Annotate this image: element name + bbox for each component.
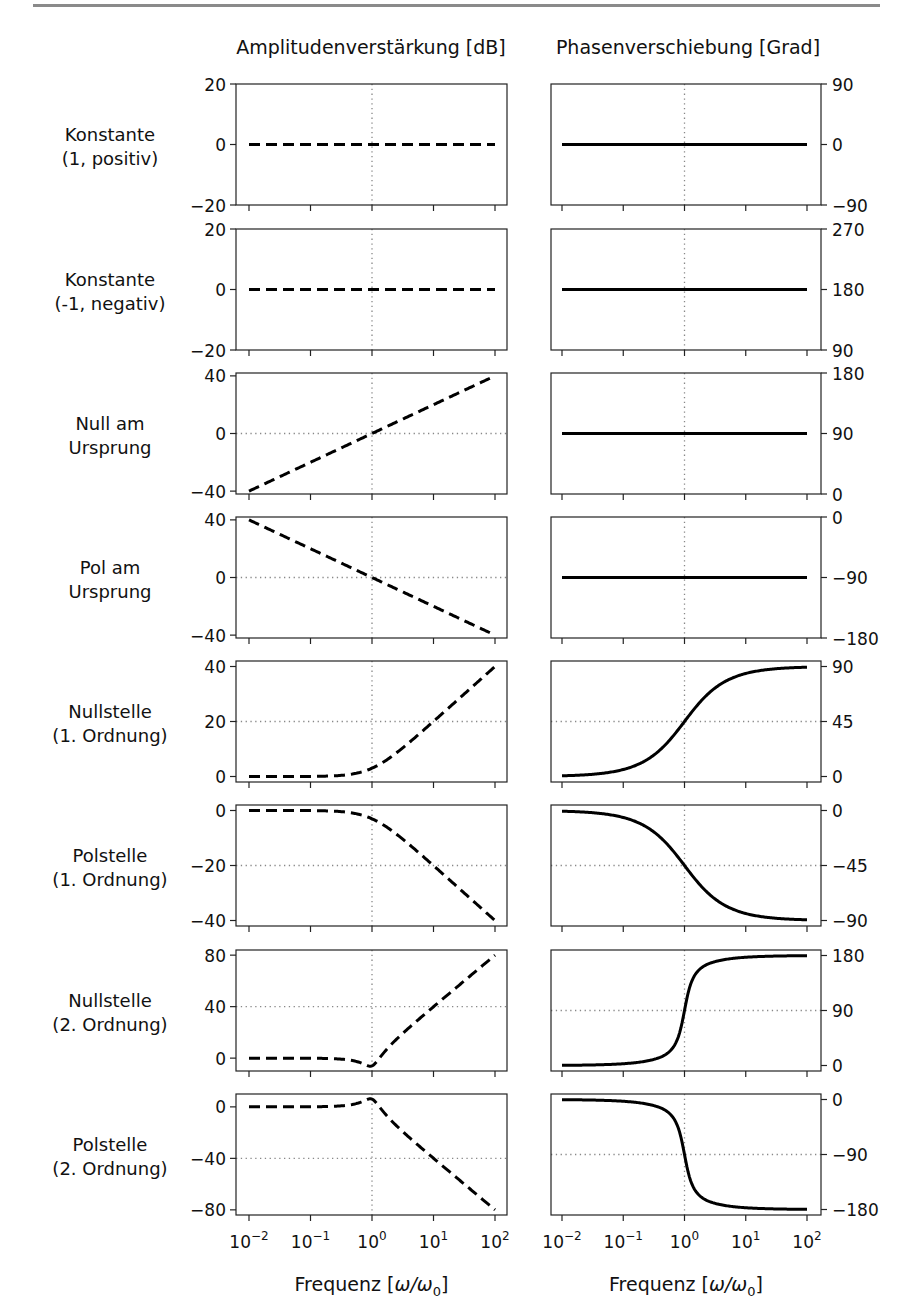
phase-curve (562, 1100, 807, 1210)
svg-text:Ursprung: Ursprung (68, 581, 151, 602)
y-tick-label: −20 (190, 196, 226, 216)
svg-text:(1. Ordnung): (1. Ordnung) (52, 869, 167, 890)
x-tick-label: 10−1 (291, 1229, 330, 1252)
phase-panels: 900−90270180901809000−90−180904500−45−90… (551, 75, 879, 1222)
y-tick-label: 0 (215, 568, 226, 588)
x-axes: 10−210−1100101102Frequenz [ω/ω0]10−210−1… (229, 1229, 821, 1299)
amplitude-panel: 40200 (204, 657, 507, 788)
y-tick-label: −90 (832, 568, 868, 588)
y-tick-label: −180 (832, 629, 879, 649)
axes-frame (236, 950, 507, 1071)
y-tick-label: 180 (832, 280, 864, 300)
row-label: Polstelle(2. Ordnung) (52, 1134, 167, 1179)
y-tick-label: 90 (832, 1001, 854, 1021)
y-tick-label: −40 (190, 911, 226, 931)
amplitude-panel: 400−40 (190, 366, 507, 501)
y-tick-label: 80 (204, 946, 226, 966)
phase-panel: 180900 (551, 946, 864, 1077)
bode-plot-grid: Amplitudenverstärkung [dB] Phasenverschi… (0, 0, 912, 1316)
amplitude-panel: 400−40 (190, 510, 507, 645)
row-label: Konstante(1, positiv) (62, 124, 158, 169)
phase-panel: 0−90−180 (551, 508, 879, 649)
y-tick-label: 270 (832, 220, 864, 240)
phase-panel: 0−90−180 (551, 1090, 879, 1221)
amplitude-panel: 80400 (204, 946, 507, 1077)
row-label: Pol amUrsprung (68, 557, 151, 602)
y-tick-label: 0 (215, 1097, 226, 1117)
y-tick-label: 180 (832, 946, 864, 966)
phase-panel: 90450 (551, 657, 854, 788)
y-tick-label: 0 (832, 508, 843, 528)
y-tick-label: 180 (832, 364, 864, 384)
amplitude-panel: 200−20 (190, 75, 507, 216)
y-tick-label: −40 (190, 1149, 226, 1169)
y-tick-label: 40 (204, 657, 226, 677)
svg-text:Polstelle: Polstelle (73, 1134, 148, 1155)
amplitude-curve (249, 811, 495, 921)
row-label: Konstante(-1, negativ) (54, 269, 165, 314)
phase-panel: 27018090 (551, 220, 864, 361)
y-tick-label: 0 (832, 135, 843, 155)
y-tick-label: 40 (204, 997, 226, 1017)
y-tick-label: 90 (832, 424, 854, 444)
y-tick-label: −80 (190, 1200, 226, 1220)
phase-curve (562, 956, 807, 1066)
y-tick-label: 90 (832, 75, 854, 95)
phase-curve (562, 667, 807, 776)
y-tick-label: 20 (204, 75, 226, 95)
amplitude-panel: 0−20−40 (190, 801, 507, 932)
svg-text:Nullstelle: Nullstelle (68, 701, 151, 722)
y-tick-label: −90 (832, 196, 868, 216)
y-tick-label: 0 (832, 1056, 843, 1076)
y-tick-label: −90 (832, 911, 868, 931)
amplitude-x-axis-label: Frequenz [ω/ω0] (295, 1273, 449, 1299)
row-label: Null amUrsprung (68, 413, 151, 458)
y-tick-label: 20 (204, 220, 226, 240)
axes-frame (236, 1094, 507, 1215)
amplitude-curve (249, 1099, 495, 1210)
amplitude-panels: 200−20200−20400−40400−40402000−20−408040… (190, 75, 507, 1222)
y-tick-label: 40 (204, 366, 226, 386)
y-tick-label: 0 (215, 1049, 226, 1069)
amplitude-curve (249, 667, 495, 777)
svg-text:(2. Ordnung): (2. Ordnung) (52, 1158, 167, 1179)
svg-text:Konstante: Konstante (65, 269, 155, 290)
amplitude-panel: 0−40−80 (190, 1094, 507, 1221)
row-labels: Konstante(1, positiv)Konstante(-1, negat… (52, 124, 167, 1179)
x-tick-label: 102 (480, 1229, 509, 1252)
svg-text:Konstante: Konstante (65, 124, 155, 145)
y-tick-label: 0 (832, 767, 843, 787)
phase-panel: 180900 (551, 364, 864, 505)
y-tick-label: 0 (832, 1090, 843, 1110)
y-tick-label: 45 (832, 712, 854, 732)
svg-text:(2. Ordnung): (2. Ordnung) (52, 1014, 167, 1035)
y-tick-label: 0 (215, 135, 226, 155)
svg-text:Ursprung: Ursprung (68, 437, 151, 458)
x-tick-label: 10−2 (229, 1229, 268, 1252)
row-label: Nullstelle(2. Ordnung) (52, 990, 167, 1035)
y-tick-label: 0 (215, 801, 226, 821)
phase-panel: 900−90 (551, 75, 868, 216)
row-label: Polstelle(1. Ordnung) (52, 845, 167, 890)
svg-text:Nullstelle: Nullstelle (68, 990, 151, 1011)
y-tick-label: 90 (832, 657, 854, 677)
phase-x-axis-label: Frequenz [ω/ω0] (609, 1273, 763, 1299)
x-tick-label: 100 (670, 1229, 699, 1252)
y-tick-label: 0 (215, 424, 226, 444)
y-tick-label: 0 (832, 801, 843, 821)
y-tick-label: 40 (204, 510, 226, 530)
y-tick-label: −20 (190, 856, 226, 876)
y-tick-label: −40 (190, 482, 226, 502)
amplitude-panel: 200−20 (190, 220, 507, 361)
svg-text:(1. Ordnung): (1. Ordnung) (52, 725, 167, 746)
svg-text:(1, positiv): (1, positiv) (62, 148, 158, 169)
amplitude-column-title: Amplitudenverstärkung [dB] (236, 36, 505, 58)
row-label: Nullstelle(1. Ordnung) (52, 701, 167, 746)
x-tick-label: 101 (419, 1229, 448, 1252)
phase-column-title: Phasenverschiebung [Grad] (556, 36, 820, 58)
y-tick-label: −40 (190, 626, 226, 646)
y-tick-label: −45 (832, 856, 868, 876)
x-tick-label: 102 (792, 1229, 821, 1252)
y-tick-label: 90 (832, 341, 854, 361)
y-tick-label: 0 (215, 280, 226, 300)
